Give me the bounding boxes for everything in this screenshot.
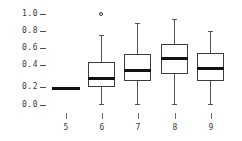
boxplot-group-7-lower-cap	[135, 104, 140, 105]
x-axis-tick-label-6: 6	[92, 124, 112, 132]
y-axis-tick-mark-0.2	[40, 87, 46, 88]
x-axis-tick-mark-5	[66, 113, 67, 119]
y-axis-tick-mark-0.8	[40, 31, 46, 32]
boxplot-group-7-upper-whisker	[137, 23, 138, 54]
boxplot-group-9-median	[197, 67, 224, 70]
x-axis-tick-mark-8	[175, 113, 176, 119]
boxplot-group-7-lower-whisker	[137, 81, 138, 104]
y-axis-tick-label-0.0: 0.0	[4, 101, 38, 109]
boxplot-group-6-box	[88, 62, 115, 87]
y-axis-tick-label-0.2: 0.2	[4, 83, 38, 91]
y-axis-tick-mark-0.4	[40, 65, 46, 66]
x-axis-tick-label-8: 8	[165, 124, 185, 132]
boxplot-group-6-median	[88, 77, 115, 80]
x-axis-tick-label-5: 5	[56, 124, 76, 132]
boxplot-group-6-upper-cap	[99, 35, 104, 36]
boxplot-group-8-lower-whisker	[174, 74, 175, 104]
x-axis-tick-mark-6	[102, 113, 103, 119]
y-axis-tick-mark-0.0	[40, 105, 46, 106]
y-axis-tick-mark-1.0	[40, 14, 46, 15]
x-axis-tick-mark-7	[138, 113, 139, 119]
boxplot-group-7-median	[124, 69, 151, 72]
boxplot-group-5-flat-line	[52, 87, 80, 90]
boxplot-group-8-lower-cap	[172, 104, 177, 105]
boxplot-group-7-upper-cap	[135, 23, 140, 24]
y-axis-tick-label-0.4: 0.4	[4, 61, 38, 69]
boxplot-group-8-upper-whisker	[174, 19, 175, 44]
boxplot-group-9-lower-whisker	[210, 81, 211, 104]
y-axis-tick-label-0.8: 0.8	[4, 27, 38, 35]
boxplot-group-9-lower-cap	[208, 104, 213, 105]
boxplot-group-7-box	[124, 54, 151, 81]
boxplot-group-8-upper-cap	[172, 19, 177, 20]
boxplot-group-6-lower-cap	[99, 104, 104, 105]
x-axis-tick-label-9: 9	[201, 124, 221, 132]
y-axis-tick-label-0.6: 0.6	[4, 44, 38, 52]
boxplot-group-6-lower-whisker	[101, 87, 102, 104]
x-axis-tick-label-7: 7	[128, 124, 148, 132]
boxplot-group-9-upper-whisker	[210, 31, 211, 53]
boxplot-group-6-upper-whisker	[101, 35, 102, 62]
boxplot-group-6-outlier-point	[99, 12, 103, 16]
y-axis-tick-label-1.0: 1.0	[4, 10, 38, 18]
boxplot-chart: 1.0 0.8 0.6 0.4 0.2 0.0 5 6 7 8 9	[0, 0, 242, 141]
boxplot-group-9-upper-cap	[208, 31, 213, 32]
y-axis-tick-mark-0.6	[40, 48, 46, 49]
x-axis-tick-mark-9	[211, 113, 212, 119]
boxplot-group-8-median	[161, 57, 188, 60]
